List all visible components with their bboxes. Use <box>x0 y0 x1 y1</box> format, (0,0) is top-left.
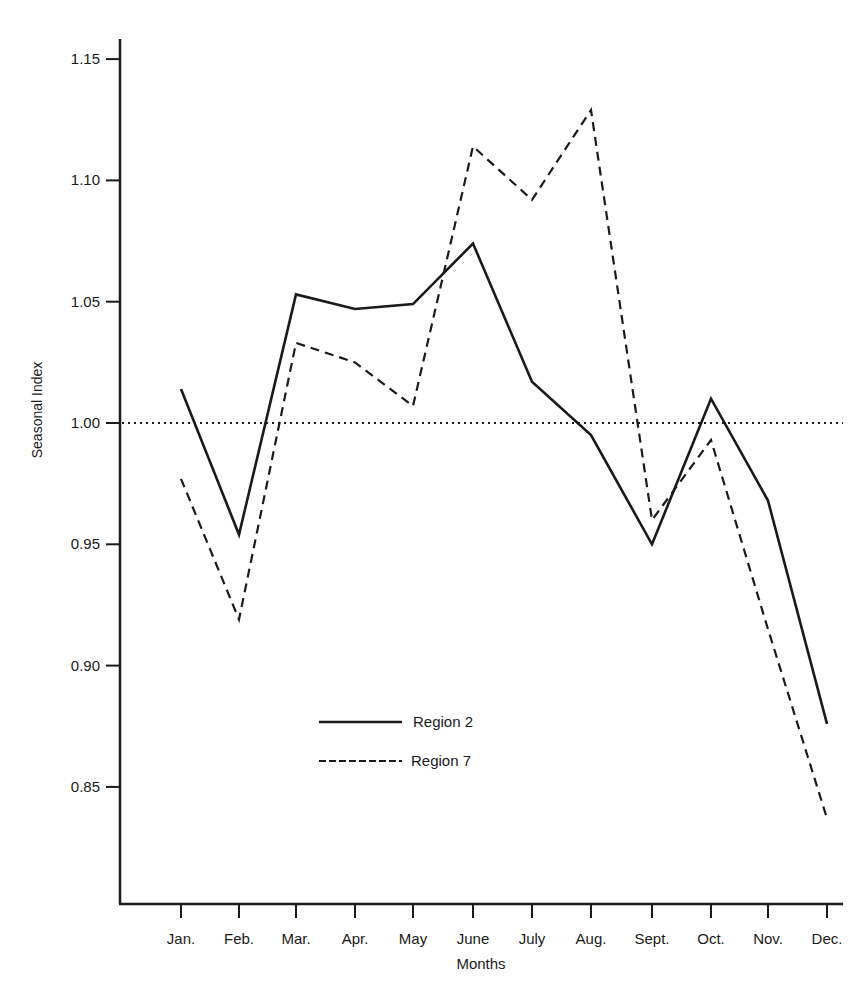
seasonal-index-chart: 0.850.900.951.001.051.101.15 Jan.Feb.Mar… <box>0 0 866 998</box>
legend-label: Region 7 <box>411 752 471 769</box>
y-tick-label: 1.15 <box>71 50 100 67</box>
y-tick-label: 0.85 <box>71 778 100 795</box>
x-tick-label: Oct. <box>697 930 725 947</box>
x-tick-label: Dec. <box>812 930 843 947</box>
x-axis-title: Months <box>456 955 505 972</box>
y-tick-label: 0.95 <box>71 535 100 552</box>
x-tick-label: Jan. <box>167 930 195 947</box>
x-tick-label: May <box>399 930 428 947</box>
y-tick-label: 1.00 <box>71 414 100 431</box>
y-tick-label: 0.90 <box>71 657 100 674</box>
x-tick-label: Mar. <box>281 930 310 947</box>
legend-label: Region 2 <box>413 713 473 730</box>
x-tick-label: Feb. <box>224 930 254 947</box>
y-axis-title: Seasonal Index <box>29 362 45 459</box>
legend-item-region-7: Region 7 <box>319 752 471 769</box>
y-axis-ticks: 0.850.900.951.001.051.101.15 <box>71 50 120 795</box>
y-tick-label: 1.10 <box>71 171 100 188</box>
legend: Region 2 Region 7 <box>319 713 473 769</box>
x-tick-label: June <box>457 930 490 947</box>
x-axis-ticks: Jan.Feb.Mar.Apr.MayJuneJulyAug.Sept.Oct.… <box>167 904 843 947</box>
x-tick-label: Nov. <box>753 930 783 947</box>
series-line-region-7 <box>181 110 827 818</box>
series-line-region-2 <box>181 244 827 724</box>
x-tick-label: Apr. <box>342 930 369 947</box>
x-tick-label: Sept. <box>634 930 669 947</box>
x-tick-label: July <box>519 930 546 947</box>
legend-item-region-2: Region 2 <box>319 713 473 730</box>
x-tick-label: Aug. <box>576 930 607 947</box>
y-tick-label: 1.05 <box>71 293 100 310</box>
